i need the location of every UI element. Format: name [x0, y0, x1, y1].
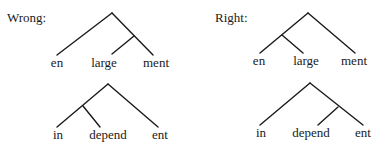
tree-edge	[57, 13, 112, 55]
leaf-label: large	[91, 55, 117, 70]
leaf-label: ent	[355, 125, 371, 140]
tree-wrong-independent: in depend ent	[53, 84, 168, 142]
right-heading: Right:	[215, 10, 248, 25]
tree-edge	[310, 83, 363, 125]
tree-edge	[57, 84, 108, 127]
leaf-label: ment	[341, 53, 367, 68]
tree-edge	[108, 84, 158, 127]
tree-right-enlargement: en large ment	[253, 13, 368, 68]
tree-edge	[112, 36, 134, 54]
leaf-label: depend	[89, 127, 127, 142]
tree-edge	[318, 107, 338, 125]
leaf-label: depend	[292, 125, 330, 140]
tree-edge	[260, 13, 308, 53]
tree-edge	[83, 106, 100, 127]
leaf-label: en	[253, 53, 266, 68]
leaf-label: in	[256, 125, 267, 140]
tree-edge	[260, 83, 310, 125]
leaf-label: en	[51, 55, 64, 70]
leaf-label: ent	[152, 127, 168, 142]
leaf-label: ment	[143, 55, 169, 70]
tree-edge	[308, 13, 355, 53]
wrong-heading: Wrong:	[7, 10, 46, 25]
leaf-label: large	[293, 53, 319, 68]
morphology-tree-diagram: Wrong: Right: en large ment en large men…	[0, 0, 385, 151]
tree-edge	[282, 35, 303, 53]
tree-wrong-enlargement: en large ment	[51, 13, 170, 70]
tree-right-independent: in depend ent	[256, 83, 371, 140]
leaf-label: in	[53, 127, 64, 142]
